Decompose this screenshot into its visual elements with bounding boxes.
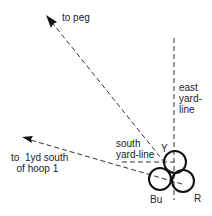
label-to-hoop1: to 1yd south of hoop 1 <box>11 152 68 174</box>
ball-r <box>172 170 194 192</box>
label-ball-y: Y <box>161 143 168 154</box>
ball-bu <box>149 168 171 190</box>
label-ball-bu: Bu <box>150 194 162 205</box>
label-to-peg: to peg <box>62 12 90 23</box>
to-hoop1-arrowhead-icon <box>22 136 33 143</box>
label-south-yard-line: south yard-line <box>116 138 154 160</box>
label-east-yard-line: east yard- line <box>179 82 202 115</box>
label-ball-r: R <box>194 193 201 204</box>
to-peg-arrowhead-icon <box>46 15 57 28</box>
